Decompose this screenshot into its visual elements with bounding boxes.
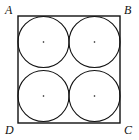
center-dot bbox=[43, 95, 45, 97]
diagram-canvas: A B C D bbox=[0, 0, 139, 140]
vertex-label-c: C bbox=[124, 123, 133, 137]
circle-top-right bbox=[69, 17, 120, 68]
circle-bottom-right bbox=[69, 71, 120, 122]
square-abcd bbox=[18, 16, 120, 123]
circle-bottom-left bbox=[18, 71, 69, 122]
vertex-label-a: A bbox=[4, 3, 13, 17]
center-dot bbox=[94, 95, 96, 97]
vertex-label-d: D bbox=[4, 123, 14, 137]
circle-top-left bbox=[18, 17, 69, 68]
center-dot bbox=[94, 41, 96, 43]
center-dot bbox=[43, 41, 45, 43]
vertex-label-b: B bbox=[124, 3, 132, 17]
